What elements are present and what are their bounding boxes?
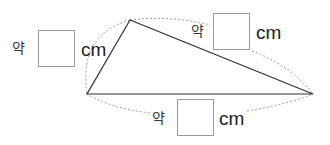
left-side-answer-box[interactable] [38, 30, 75, 67]
top-unit-label: cm [256, 23, 281, 42]
bottom-approx-label: 약 [152, 111, 165, 125]
bottom-side-arc-2 [247, 94, 313, 111]
bottom-unit-label: cm [219, 109, 244, 128]
left-approx-label: 약 [12, 41, 25, 55]
top-side-answer-box[interactable] [213, 13, 250, 50]
bottom-side-answer-box[interactable] [177, 99, 214, 136]
left-unit-label: cm [81, 40, 106, 59]
bottom-side-arc [87, 94, 150, 113]
top-approx-label: 약 [191, 24, 204, 38]
